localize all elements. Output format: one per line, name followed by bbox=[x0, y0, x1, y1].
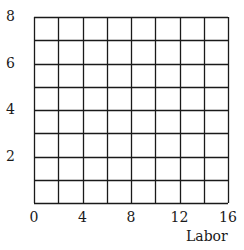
y-tick-label: 4 bbox=[6, 102, 26, 116]
x-tick-label: 0 bbox=[19, 210, 49, 224]
x-tick-label: 8 bbox=[116, 210, 146, 224]
x-tick-label: 4 bbox=[68, 210, 98, 224]
y-tick-label: 6 bbox=[6, 56, 26, 70]
y-tick-label: 2 bbox=[6, 149, 26, 163]
chart: 2468 0481216 Labor bbox=[0, 0, 244, 250]
x-tick-label: 12 bbox=[165, 210, 195, 224]
x-axis-label: Labor bbox=[186, 229, 228, 243]
y-tick-label: 8 bbox=[6, 9, 26, 23]
x-tick-label: 16 bbox=[213, 210, 243, 224]
